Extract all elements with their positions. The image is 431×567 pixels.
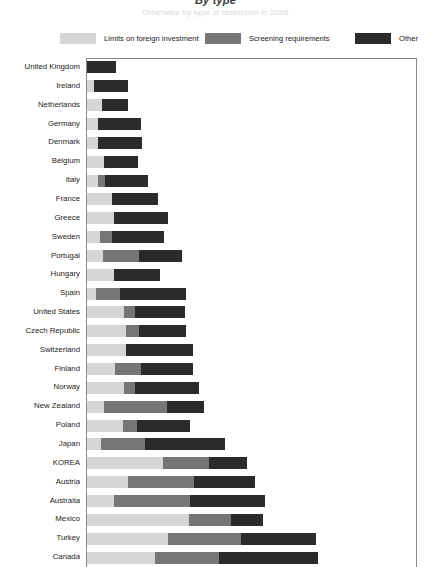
bar-segment-other[interactable]: [114, 212, 169, 224]
bar-segment-limits[interactable]: [87, 306, 124, 318]
bar-segment-screening[interactable]: [101, 438, 145, 450]
stacked-bar[interactable]: [87, 212, 168, 224]
stacked-bar[interactable]: [87, 250, 182, 262]
legend-item-limits[interactable]: Limits on foreign investment: [60, 31, 199, 46]
bar-segment-limits[interactable]: [87, 212, 114, 224]
bar-segment-other[interactable]: [137, 420, 190, 432]
bar-segment-other[interactable]: [139, 250, 182, 262]
bar-segment-other[interactable]: [241, 533, 316, 545]
stacked-bar[interactable]: [87, 99, 128, 111]
bar-segment-limits[interactable]: [87, 118, 98, 130]
bar-segment-limits[interactable]: [87, 382, 124, 394]
bar-segment-other[interactable]: [190, 495, 265, 507]
bar-segment-screening[interactable]: [104, 401, 167, 413]
bar-segment-other[interactable]: [141, 363, 193, 375]
bar-segment-limits[interactable]: [87, 420, 123, 432]
bar-segment-limits[interactable]: [87, 137, 98, 149]
bar-segment-limits[interactable]: [87, 438, 101, 450]
stacked-bar[interactable]: [87, 552, 318, 564]
stacked-bar[interactable]: [87, 175, 148, 187]
stacked-bar[interactable]: [87, 344, 193, 356]
bar-segment-limits[interactable]: [87, 552, 155, 564]
bar-segment-limits[interactable]: [87, 250, 103, 262]
bar-segment-screening[interactable]: [189, 514, 231, 526]
bar-segment-screening[interactable]: [115, 363, 141, 375]
bar-segment-other[interactable]: [139, 325, 186, 337]
bar-segment-screening[interactable]: [163, 457, 208, 469]
legend-item-screening[interactable]: Screening requirements: [205, 31, 330, 46]
bar-segment-limits[interactable]: [87, 99, 102, 111]
bar-segment-screening[interactable]: [124, 306, 135, 318]
bar-segment-limits[interactable]: [87, 288, 96, 300]
bar-segment-other[interactable]: [104, 156, 138, 168]
bar-segment-other[interactable]: [112, 231, 164, 243]
bar-segment-screening[interactable]: [96, 288, 120, 300]
bar-segment-other[interactable]: [87, 61, 116, 73]
bar-segment-other[interactable]: [112, 193, 158, 205]
bar-segment-screening[interactable]: [155, 552, 219, 564]
stacked-bar[interactable]: [87, 382, 199, 394]
legend-item-other[interactable]: Other: [355, 31, 418, 46]
bar-segment-screening[interactable]: [98, 175, 105, 187]
stacked-bar[interactable]: [87, 118, 141, 130]
bar-segment-limits[interactable]: [87, 193, 112, 205]
bar-segment-other[interactable]: [167, 401, 204, 413]
stacked-bar[interactable]: [87, 231, 164, 243]
bar-segment-limits[interactable]: [87, 476, 128, 488]
bar-segment-limits[interactable]: [87, 514, 189, 526]
stacked-bar[interactable]: [87, 61, 116, 73]
bar-segment-other[interactable]: [194, 476, 254, 488]
bar-segment-limits[interactable]: [87, 401, 104, 413]
bar-segment-other[interactable]: [231, 514, 263, 526]
stacked-bar[interactable]: [87, 325, 186, 337]
bar-segment-limits[interactable]: [87, 325, 126, 337]
stacked-bar[interactable]: [87, 438, 225, 450]
bar-segment-limits[interactable]: [87, 495, 114, 507]
bar-segment-other[interactable]: [120, 288, 186, 300]
stacked-bar[interactable]: [87, 193, 158, 205]
bar-segment-other[interactable]: [98, 137, 143, 149]
stacked-bar[interactable]: [87, 401, 204, 413]
bar-segment-limits[interactable]: [87, 533, 168, 545]
bar-segment-other[interactable]: [126, 344, 194, 356]
stacked-bar[interactable]: [87, 514, 263, 526]
bar-segment-screening[interactable]: [124, 382, 135, 394]
stacked-bar[interactable]: [87, 80, 128, 92]
stacked-bar[interactable]: [87, 269, 160, 281]
bar-segment-other[interactable]: [135, 306, 185, 318]
bar-segment-screening[interactable]: [123, 420, 137, 432]
bar-segment-other[interactable]: [94, 80, 128, 92]
bar-segment-screening[interactable]: [103, 250, 139, 262]
stacked-bar[interactable]: [87, 457, 247, 469]
bar-segment-other[interactable]: [98, 118, 141, 130]
bar-segment-other[interactable]: [105, 175, 148, 187]
bar-segment-limits[interactable]: [87, 156, 104, 168]
bar-segment-screening[interactable]: [114, 495, 190, 507]
bar-segment-other[interactable]: [145, 438, 225, 450]
bar-segment-limits[interactable]: [87, 231, 100, 243]
bar-segment-limits[interactable]: [87, 175, 98, 187]
bar-segment-limits[interactable]: [87, 269, 114, 281]
stacked-bar[interactable]: [87, 156, 138, 168]
stacked-bar[interactable]: [87, 495, 265, 507]
bar-segment-screening[interactable]: [126, 325, 139, 337]
bar-segment-screening[interactable]: [128, 476, 194, 488]
bar-segment-limits[interactable]: [87, 344, 126, 356]
stacked-bar[interactable]: [87, 306, 185, 318]
stacked-bar[interactable]: [87, 137, 142, 149]
stacked-bar[interactable]: [87, 476, 255, 488]
stacked-bar[interactable]: [87, 288, 186, 300]
bar-segment-screening[interactable]: [100, 231, 112, 243]
bar-segment-other[interactable]: [102, 99, 128, 111]
bar-segment-other[interactable]: [114, 269, 160, 281]
bar-segment-limits[interactable]: [87, 80, 94, 92]
bar-segment-other[interactable]: [219, 552, 318, 564]
stacked-bar[interactable]: [87, 363, 193, 375]
stacked-bar[interactable]: [87, 420, 190, 432]
bar-segment-limits[interactable]: [87, 457, 163, 469]
bar-segment-other[interactable]: [135, 382, 198, 394]
bar-segment-limits[interactable]: [87, 363, 115, 375]
stacked-bar[interactable]: [87, 533, 316, 545]
bar-segment-screening[interactable]: [168, 533, 241, 545]
bar-segment-other[interactable]: [209, 457, 247, 469]
